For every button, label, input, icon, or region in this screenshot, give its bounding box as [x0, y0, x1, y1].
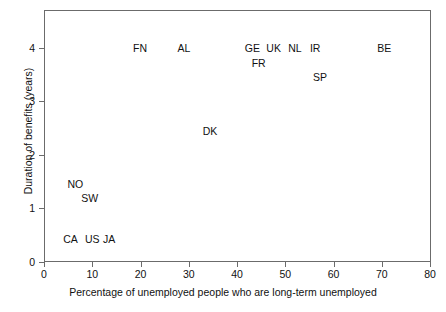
x-tick — [285, 262, 286, 267]
x-tick-label: 10 — [77, 268, 107, 280]
y-tick — [39, 48, 44, 49]
x-tick — [189, 262, 190, 267]
y-tick-label: 0 — [19, 256, 35, 268]
x-tick — [92, 262, 93, 267]
data-point-label: UK — [266, 42, 281, 53]
x-tick — [334, 262, 335, 267]
x-tick — [44, 262, 45, 267]
x-tick-label: 40 — [222, 268, 252, 280]
data-point-label: JA — [103, 233, 115, 244]
x-tick — [430, 262, 431, 267]
x-tick — [141, 262, 142, 267]
data-point-label: IR — [310, 42, 321, 53]
data-point-label: NO — [67, 179, 83, 190]
x-tick — [382, 262, 383, 267]
x-tick — [237, 262, 238, 267]
x-tick-label: 60 — [319, 268, 349, 280]
data-point-label: GE — [245, 42, 260, 53]
y-tick — [39, 155, 44, 156]
y-tick — [39, 101, 44, 102]
data-point-label: FR — [252, 57, 266, 68]
x-tick-label: 20 — [126, 268, 156, 280]
data-point-label: BE — [377, 42, 391, 53]
scatter-chart: 01020304050607080 01234 NOSWCAUSJAFNALDK… — [0, 0, 446, 312]
data-point-label: AL — [178, 42, 191, 53]
x-tick-label: 70 — [367, 268, 397, 280]
plot-area — [44, 10, 431, 262]
data-point-label: SP — [313, 72, 327, 83]
x-axis-title: Percentage of unemployed people who are … — [0, 286, 446, 298]
data-point-label: SW — [81, 192, 98, 203]
y-tick — [39, 208, 44, 209]
x-tick-label: 30 — [174, 268, 204, 280]
data-point-label: US — [85, 233, 100, 244]
y-axis-title: Duration of benefits (years) — [22, 41, 34, 221]
data-point-label: CA — [63, 233, 78, 244]
x-tick-label: 80 — [415, 268, 445, 280]
data-point-label: NL — [288, 42, 301, 53]
x-tick-label: 0 — [29, 268, 59, 280]
y-tick — [39, 262, 44, 263]
x-tick-label: 50 — [270, 268, 300, 280]
data-point-label: FN — [133, 42, 147, 53]
data-point-label: DK — [203, 125, 218, 136]
